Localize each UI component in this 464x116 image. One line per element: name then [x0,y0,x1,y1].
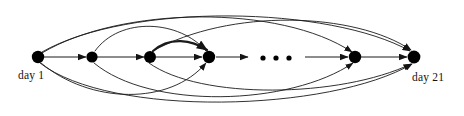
day-1-node[interactable] [32,51,44,63]
day-21-node[interactable] [408,51,421,64]
arc-n1-n6-upper [42,16,410,52]
node-3[interactable] [144,51,156,63]
arc-n1-n5-upper [42,17,352,53]
node-4[interactable] [203,51,215,63]
ellipsis-dot-3 [286,55,291,60]
graph-canvas: day 1day 21 [0,0,464,116]
arc-n3-n6-lower [149,63,411,90]
graph-figure: day 1day 21 [0,0,464,116]
labels-layer: day 1day 21 [18,69,444,84]
ellipsis-dot-1 [260,55,265,60]
node-5[interactable] [349,51,361,63]
arc-n4-n2-upper [95,26,206,51]
ellipsis-layer [260,55,291,60]
arc-n3-n4-upper [153,41,207,51]
ellipsis-dot-2 [273,55,278,60]
day-21-caption: day 21 [412,71,444,84]
node-2[interactable] [86,51,97,62]
arc-n2-n5-lower [94,63,353,97]
day-1-caption: day 1 [18,69,44,82]
